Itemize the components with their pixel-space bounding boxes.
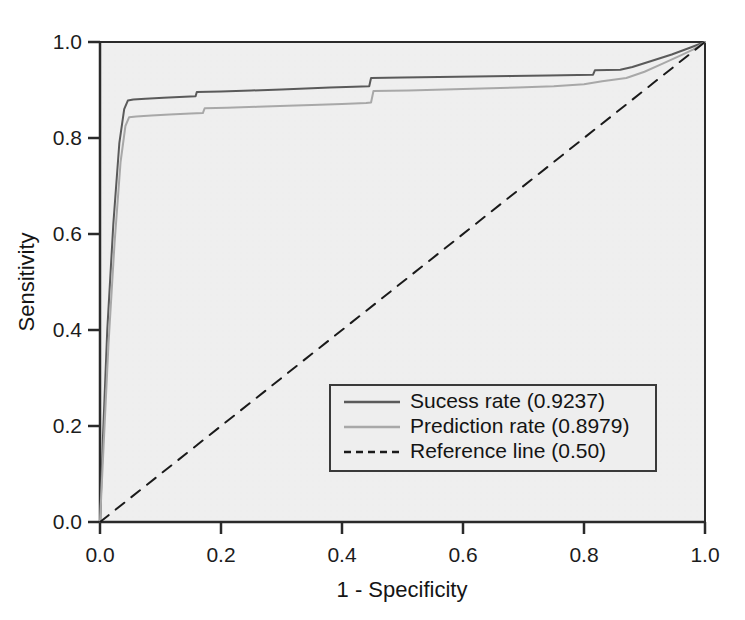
roc-chart-svg: 0.00.20.40.60.81.0 0.00.20.40.60.81.0 Se… — [0, 0, 745, 620]
legend-label: Reference line (0.50) — [410, 439, 606, 462]
y-tick-label: 0.6 — [53, 222, 82, 245]
y-tick-label: 0.2 — [53, 414, 82, 437]
legend-label: Sucess rate (0.9237) — [410, 389, 605, 412]
chart-legend: Sucess rate (0.9237)Prediction rate (0.8… — [330, 385, 656, 471]
y-tick-label: 0.4 — [53, 318, 83, 341]
x-tick-label: 0.2 — [206, 543, 235, 566]
legend-label: Prediction rate (0.8979) — [410, 414, 629, 437]
y-axis-title: Sensitivity — [14, 232, 39, 331]
roc-chart: 0.00.20.40.60.81.0 0.00.20.40.60.81.0 Se… — [0, 0, 745, 620]
x-tick-label: 0.6 — [448, 543, 477, 566]
x-tick-label: 0.0 — [85, 543, 114, 566]
x-tick-label: 0.8 — [569, 543, 598, 566]
x-tick-label: 0.4 — [327, 543, 357, 566]
y-tick-label: 0.0 — [53, 510, 82, 533]
x-axis-title: 1 - Specificity — [337, 577, 468, 602]
x-tick-label: 1.0 — [690, 543, 719, 566]
y-tick-label: 1.0 — [53, 30, 82, 53]
y-tick-label: 0.8 — [53, 126, 82, 149]
